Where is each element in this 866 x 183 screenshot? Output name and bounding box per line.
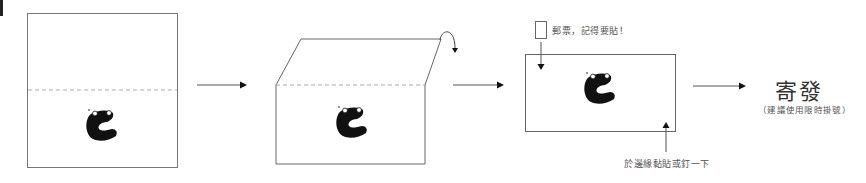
mascot-icon: [336, 106, 366, 137]
arrow-up-icon: [663, 122, 670, 152]
arrow-down-icon: [538, 42, 545, 70]
stamp-icon: [536, 22, 547, 39]
arrow-right-icon: [693, 83, 746, 90]
step-1-sheet: [28, 14, 178, 168]
send-note: （建議使用限時掛號）: [758, 103, 851, 115]
send-title: 寄發: [775, 73, 823, 105]
edge-mark: [0, 0, 3, 16]
arrow-right-icon: [197, 82, 247, 89]
step-2-folding-sheet: [276, 39, 441, 164]
arrow-right-icon: [453, 82, 504, 89]
step-3-envelope: [526, 55, 676, 132]
stamp-label: 郵票，記得要貼！: [552, 24, 628, 37]
mascot-icon: [86, 109, 116, 140]
curved-fold-arrow-icon: [440, 32, 458, 53]
fold-diagram: [0, 0, 866, 183]
seal-label: 於邊緣黏貼或釘一下: [624, 157, 710, 170]
mascot-icon: [584, 72, 614, 103]
